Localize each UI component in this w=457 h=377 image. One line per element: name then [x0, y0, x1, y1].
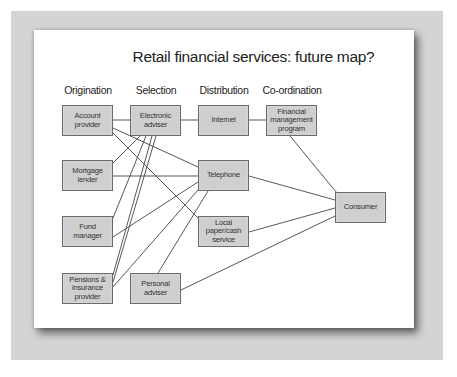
node-personal-adviser: Personal adviser — [130, 273, 181, 304]
node-label: Fund manager — [71, 223, 104, 240]
edge-financial-management-program-to-consumer — [290, 136, 337, 193]
node-fund-manager: Fund manager — [62, 216, 113, 247]
node-label: Local paper/cash service — [204, 219, 244, 244]
node-label: Account provider — [72, 112, 102, 129]
edge-electronic-adviser-to-fund-manager — [113, 136, 146, 218]
node-pensions-insurance-provider: Pensions & insurance provider — [62, 273, 113, 304]
node-consumer: Consumer — [335, 192, 386, 223]
edge-electronic-adviser-to-mortgage-lender — [113, 136, 140, 163]
edge-account-provider-to-local-paper-cash-service — [113, 133, 198, 218]
node-financial-management-program: Financial management program — [266, 105, 317, 136]
edge-telephone-to-consumer — [249, 176, 335, 200]
node-internet: Internet — [198, 105, 249, 136]
node-label: Telephone — [205, 171, 242, 179]
node-label: Electronic adviser — [138, 112, 173, 129]
node-mortgage-lender: Mortgage lender — [62, 160, 113, 191]
node-account-provider: Account provider — [62, 105, 113, 136]
node-label: Financial management program — [268, 108, 314, 133]
node-label: Pensions & insurance provider — [67, 276, 107, 301]
node-label: Consumer — [342, 203, 379, 211]
node-local-paper-cash-service: Local paper/cash service — [198, 216, 249, 247]
edge-local-paper-cash-service-to-consumer — [249, 208, 335, 232]
edge-electronic-adviser-to-pensions-insurance-provider — [113, 136, 156, 282]
node-label: Personal adviser — [139, 280, 171, 297]
node-label: Internet — [209, 116, 237, 124]
node-electronic-adviser: Electronic adviser — [130, 105, 181, 136]
node-telephone: Telephone — [198, 160, 249, 191]
node-label: Mortgage lender — [70, 167, 104, 184]
